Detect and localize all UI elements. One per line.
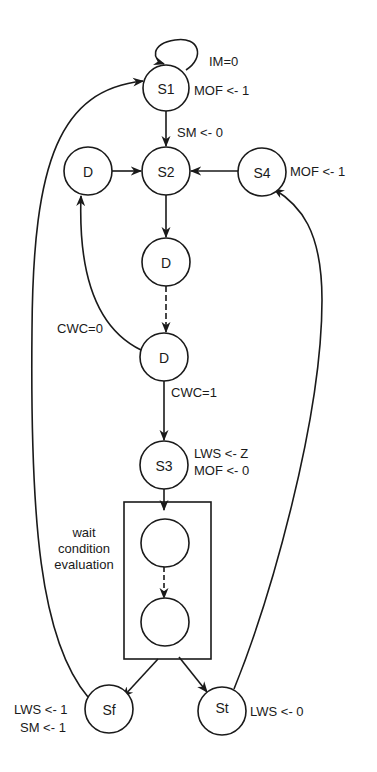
node-s1: S1 [143,65,189,111]
label-sf-lws: LWS <- 1 [14,702,68,717]
edge-box-sf [123,659,158,697]
label-evaluation: evaluation [54,557,113,572]
node-s2: S2 [142,147,190,195]
label-st-lws: LWS <- 0 [250,704,304,719]
label-im-0: IM=0 [209,54,238,69]
node-d-mid: D [142,238,190,286]
svg-text:D: D [159,350,169,366]
label-s4-mof: MOF <- 1 [290,164,345,179]
state-diagram: S1 S2 D S4 D D S3 Sf St IM=0 MOF <- 1 SM… [0,0,377,772]
label-s1-mof: MOF <- 1 [194,83,249,98]
node-s4: S4 [238,148,286,196]
svg-text:D: D [83,164,93,180]
svg-text:S3: S3 [155,458,172,474]
node-wait-2 [141,598,189,646]
node-sf: Sf [85,685,133,733]
svg-text:D: D [161,255,171,271]
label-condition: condition [58,541,110,556]
node-d-left: D [64,147,112,195]
label-sf-sm: SM <- 1 [20,720,66,735]
node-wait-1 [141,519,189,567]
svg-text:St: St [215,700,228,716]
node-d-lower: D [140,333,188,381]
label-cwc-1: CWC=1 [171,385,217,400]
edge-st-s4 [234,189,322,689]
svg-text:S1: S1 [157,81,174,97]
label-wait: wait [71,525,96,540]
svg-text:Sf: Sf [102,702,115,718]
label-s3-lws: LWS <- Z [194,446,248,461]
svg-text:S4: S4 [253,165,270,181]
svg-text:S2: S2 [157,164,174,180]
edge-box-st [179,657,207,692]
node-st: St [198,687,246,735]
label-cwc-0: CWC=0 [57,321,103,336]
label-s3-mof: MOF <- 0 [194,463,249,478]
label-sm-0: SM <- 0 [177,125,223,140]
node-s3: S3 [140,441,188,489]
